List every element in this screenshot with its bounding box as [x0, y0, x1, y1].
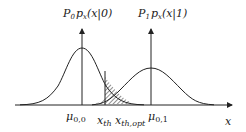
- label-x-th: xth: [97, 114, 112, 128]
- error-region-hatch: [95, 77, 131, 104]
- diagram-canvas: P0px(x|0) P1px(x|1) μ0,0 xth xth,opt μ0,…: [0, 0, 246, 132]
- label-class1-density: P1px(x|1): [137, 7, 187, 21]
- label-mu-00: μ0,0: [66, 110, 86, 124]
- label-x-th-opt: xth,opt: [115, 114, 146, 128]
- label-x-axis: x: [225, 115, 232, 128]
- label-mu-01: μ0,1: [148, 110, 168, 124]
- label-class0-density: P0px(x|0): [62, 7, 112, 21]
